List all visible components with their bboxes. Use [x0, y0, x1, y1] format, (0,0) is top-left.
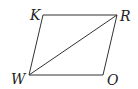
vertex-label-r: R [119, 8, 131, 24]
vertex-label-o: O [107, 72, 119, 88]
vertex-label-k: K [29, 7, 42, 23]
vertex-label-w: W [11, 71, 27, 87]
diagonal-wr [29, 15, 117, 75]
parallelogram-diagram: K R O W [0, 0, 138, 89]
